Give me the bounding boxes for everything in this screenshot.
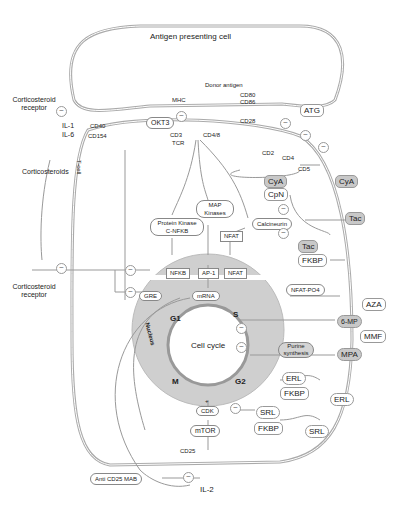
il6-label: IL-6 <box>62 131 74 139</box>
mmf-drug: MMF <box>360 330 386 343</box>
map-kinases: MAP Kinases <box>196 200 234 218</box>
mrna: mRNA <box>192 291 220 301</box>
inhibit-icon: − <box>230 403 241 414</box>
mtor: mTOR <box>190 425 220 437</box>
inhibit-icon: − <box>125 265 136 276</box>
cpn: CpN <box>264 188 288 201</box>
tac-inside-drug: Tac <box>298 240 318 253</box>
inhibit-icon: − <box>236 342 247 353</box>
nfkb-nuclear: NFKB <box>166 268 190 279</box>
cd48-label: CD4/8 <box>203 132 220 139</box>
ap1-nuclear: AP-1 <box>198 268 219 279</box>
cd40-label: CD40 <box>90 123 105 130</box>
tac-outside-drug: Tac <box>345 212 365 225</box>
inhibit-icon: − <box>183 472 194 483</box>
inhibit-icon: − <box>56 263 67 274</box>
corticosteroids-label: Corticosteroids <box>22 168 69 176</box>
nfat-po4: NFAT-PO4 <box>286 284 325 296</box>
six-mp-drug: 6-MP <box>337 315 362 328</box>
inhibit-icon: − <box>300 130 311 141</box>
inhibit-icon: − <box>280 118 291 129</box>
cya-inside-drug: CyA <box>264 175 287 188</box>
corticosteroid-receptor-bottom-label: Corticosteroid receptor <box>4 283 64 299</box>
srl-inside-drug: SRL <box>256 406 280 419</box>
anti-cd25-mab-drug: Anti CD25 MAB <box>90 473 142 485</box>
cd5-label: CD5 <box>298 166 310 173</box>
cd2-label: CD2 <box>262 150 274 157</box>
cd25-label: CD25 <box>180 448 195 455</box>
cya-outside-drug: CyA <box>335 175 358 188</box>
phase-s: S <box>233 310 238 319</box>
cd80-label: CD80 <box>240 92 255 99</box>
gre: GRE <box>139 291 162 301</box>
phase-g2: G2 <box>235 377 246 386</box>
okt3-drug: OKT3 <box>146 117 174 129</box>
inhibit-icon: − <box>125 287 136 298</box>
donor-antigen-label: Donor antigen <box>205 82 243 89</box>
plus-sign: + <box>205 398 209 405</box>
atg-drug: ATG <box>300 104 324 117</box>
tcr-label: TCR <box>172 140 184 147</box>
pathway-diagram-graphics <box>0 0 402 520</box>
purine-synthesis: Purine synthesis <box>278 342 314 358</box>
inhibit-icon: − <box>278 204 289 215</box>
protein-kinase-c-nfkb: Protein Kinase C-NFKB <box>150 218 204 236</box>
nfat-cytoplasm: NFAT <box>220 231 243 242</box>
inhibit-icon: − <box>176 111 187 122</box>
inhibit-icon: − <box>318 142 329 153</box>
phase-m: M <box>172 377 179 386</box>
apc-label: Antigen presenting cell <box>150 32 231 41</box>
fkbp-srl: FKBP <box>254 422 283 435</box>
inhibit-icon: − <box>236 323 247 334</box>
aza-drug: AZA <box>362 298 386 311</box>
erl-inside-drug: ERL <box>282 372 306 385</box>
cell-cycle-label: Cell cycle <box>188 341 228 350</box>
nfat-nuclear: NFAT <box>224 268 247 279</box>
inhibit-icon: − <box>56 106 67 117</box>
tcell-label: T-cell <box>75 160 82 174</box>
fkbp-erl: FKBP <box>280 387 309 400</box>
cd28-label: CD28 <box>240 118 255 125</box>
cd3-label: CD3 <box>170 132 182 139</box>
mpa-drug: MPA <box>337 348 362 361</box>
srl-outside-drug: SRL <box>305 425 329 438</box>
corticosteroid-receptor-top-label: Corticosteroid receptor <box>6 96 62 112</box>
cd4-label: CD4 <box>282 155 294 162</box>
il2-label: IL-2 <box>200 485 214 494</box>
phase-g1: G1 <box>170 314 181 323</box>
cd86-label: CD86 <box>240 99 255 106</box>
inhibit-icon: − <box>278 228 289 239</box>
mhc-label: MHC <box>172 97 186 104</box>
cdk: CDK <box>196 406 219 416</box>
il1-label: IL-1 <box>62 122 74 130</box>
cd154-label: CD154 <box>88 133 107 140</box>
fkbp-tac: FKBP <box>298 254 327 267</box>
erl-outside-drug: ERL <box>330 393 354 406</box>
